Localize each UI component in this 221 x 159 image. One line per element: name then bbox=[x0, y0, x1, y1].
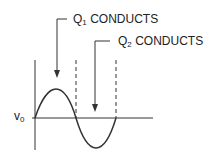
q1-text: CONDUCTS bbox=[87, 12, 158, 26]
q2-text: CONDUCTS bbox=[132, 34, 203, 48]
q1-prefix: Q bbox=[73, 12, 82, 26]
v0-subscript: 0 bbox=[20, 115, 24, 124]
q2-leader-line bbox=[95, 41, 110, 106]
q2-prefix: Q bbox=[118, 34, 127, 48]
q2-arrowhead-icon bbox=[92, 104, 98, 112]
q2-conducts-label: Q2 CONDUCTS bbox=[118, 35, 203, 49]
q1-leader-line bbox=[57, 19, 67, 72]
q1-conducts-label: Q1 CONDUCTS bbox=[73, 13, 158, 27]
v0-axis-label: v0 bbox=[14, 110, 24, 124]
q1-arrowhead-icon bbox=[54, 70, 60, 78]
diagram: Q1 CONDUCTS Q2 CONDUCTS v0 bbox=[0, 0, 221, 159]
